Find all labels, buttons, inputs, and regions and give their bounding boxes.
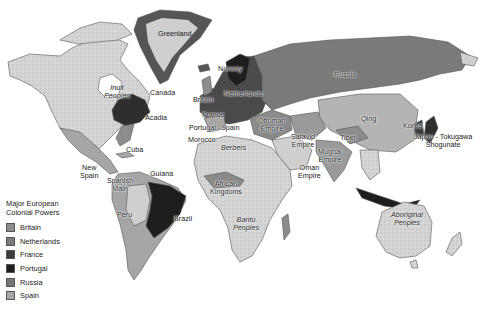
label-inuit-peoples: Inuit Peoples bbox=[104, 84, 130, 100]
label-aboriginal-line2: Peoples bbox=[391, 219, 423, 227]
legend-item-spain: Spain bbox=[6, 289, 96, 303]
legend-item-netherlands: Netherlands bbox=[6, 235, 96, 249]
label-spanish-main: Spanish Main bbox=[107, 177, 133, 193]
legend-swatch-portugal bbox=[6, 264, 15, 273]
legend-item-portugal: Portugal bbox=[6, 262, 96, 276]
legend-swatch-spain bbox=[6, 291, 15, 300]
label-ottoman-empire: Ottoman Empire bbox=[258, 117, 286, 133]
new-zealand bbox=[446, 232, 462, 256]
portuguese-brazil bbox=[146, 182, 186, 238]
label-japan-tokugawa: Japan - Tokugawa Shogunate bbox=[414, 133, 472, 149]
legend-item-britain: Britain bbox=[6, 221, 96, 235]
legend-label-portugal: Portugal bbox=[20, 264, 48, 273]
label-bantu-peoples: Bantu Peoples bbox=[233, 216, 259, 232]
label-oman-line2: Empire bbox=[298, 172, 321, 180]
africa bbox=[194, 136, 292, 262]
label-ottoman-line2: Empire bbox=[258, 125, 286, 133]
label-canada: Canada bbox=[150, 89, 175, 97]
legend-title: Major European Colonial Powers bbox=[6, 199, 96, 217]
label-japan-line2: Shogunate bbox=[414, 141, 472, 149]
label-aboriginal-peoples: Aboriginal Peoples bbox=[391, 211, 423, 227]
legend-label-britain: Britain bbox=[20, 223, 41, 232]
label-oman-empire: Oman Empire bbox=[298, 164, 321, 180]
legend-swatch-britain bbox=[6, 223, 15, 232]
label-cuba: Cuba bbox=[126, 146, 143, 154]
label-new-spain: New Spain bbox=[80, 164, 98, 180]
label-safavid-line2: Empire bbox=[291, 141, 315, 149]
legend-title-line1: Major European bbox=[6, 199, 96, 208]
legend-label-netherlands: Netherlands bbox=[20, 237, 60, 246]
label-mughal-line2: Empire bbox=[318, 156, 342, 164]
legend-label-france: France bbox=[20, 250, 43, 259]
legend-title-line2: Colonial Powers bbox=[6, 208, 96, 217]
label-spain: Spain bbox=[221, 124, 239, 132]
label-berbers: Berbers bbox=[221, 144, 246, 152]
label-spanish-main-line2: Main bbox=[107, 185, 133, 193]
britain-isles bbox=[202, 76, 212, 96]
label-qing: Qing bbox=[361, 115, 376, 123]
label-netherlands: Netherlands bbox=[224, 90, 263, 98]
label-greenland: Greenland bbox=[158, 30, 192, 38]
map-legend: Major European Colonial Powers Britain N… bbox=[6, 199, 96, 303]
label-african-kingdoms: African Kingdoms bbox=[210, 180, 242, 196]
label-portugal: Portugal bbox=[189, 124, 216, 132]
iceland bbox=[198, 64, 210, 72]
legend-label-spain: Spain bbox=[20, 291, 39, 300]
label-inuit-line2: Peoples bbox=[104, 92, 130, 100]
legend-item-russia: Russia bbox=[6, 275, 96, 289]
label-african-line2: Kingdoms bbox=[210, 188, 242, 196]
label-korea: Korea bbox=[403, 122, 422, 130]
label-norway: Norway bbox=[218, 65, 242, 73]
label-morocco: Morocco bbox=[188, 136, 216, 144]
legend-swatch-russia bbox=[6, 278, 15, 287]
madagascar bbox=[282, 214, 290, 240]
label-france: France bbox=[202, 111, 224, 119]
legend-swatch-france bbox=[6, 250, 15, 259]
label-russia: Russia bbox=[334, 71, 356, 79]
label-mughal-empire: Mughal Empire bbox=[318, 148, 342, 164]
label-britain: Britain bbox=[193, 96, 213, 104]
label-new-spain-line2: Spain bbox=[80, 172, 98, 180]
label-safavid-empire: Safavid Empire bbox=[291, 133, 315, 149]
label-tibet: Tibet bbox=[340, 134, 356, 142]
label-bantu-line2: Peoples bbox=[233, 224, 259, 232]
label-brazil: Brazil bbox=[174, 215, 192, 223]
legend-label-russia: Russia bbox=[20, 278, 43, 287]
label-acadia: Acadia bbox=[145, 114, 167, 122]
legend-swatch-netherlands bbox=[6, 237, 15, 246]
legend-item-france: France bbox=[6, 248, 96, 262]
label-peru: Peru bbox=[117, 211, 132, 219]
label-guiana: Guiana bbox=[150, 170, 173, 178]
